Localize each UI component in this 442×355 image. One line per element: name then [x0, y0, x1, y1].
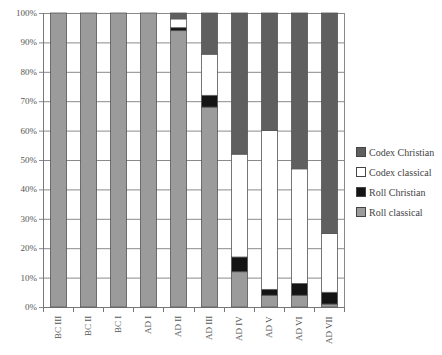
legend-item-roll-classical: Roll classical — [356, 202, 434, 222]
bar-segment-roll-christian — [202, 95, 218, 107]
legend-label: Roll Christian — [369, 187, 425, 198]
bar-segment-codex-classical — [292, 169, 308, 284]
x-tick-label: AD II — [173, 316, 183, 337]
y-tick-label: 100% — [0, 8, 37, 18]
bar-segment-codex-classical — [202, 54, 218, 95]
y-tick-label: 50% — [0, 155, 37, 165]
y-tick-label: 80% — [0, 67, 37, 77]
y-tick-label: 30% — [0, 214, 37, 224]
bar-segment-codex-classical — [171, 19, 187, 28]
legend-label: Codex Christian — [369, 147, 434, 158]
bar-segment-roll-classical — [232, 272, 248, 307]
bar-segment-codex-classical — [322, 234, 338, 293]
bar-segment-codex-christian — [322, 13, 338, 234]
x-tick-label: BC III — [53, 316, 63, 339]
stacked-bar-chart: 0%10%20%30%40%50%60%70%80%90%100% BC III… — [0, 0, 442, 355]
x-tick-label: AD VI — [294, 316, 304, 341]
bar-segment-codex-classical — [262, 131, 278, 290]
bar-segment-roll-christian — [171, 28, 187, 31]
bar-segment-codex-christian — [202, 13, 218, 54]
bar-segment-roll-christian — [322, 292, 338, 304]
bar-segment-roll-classical — [171, 31, 187, 307]
y-tick-label: 40% — [0, 184, 37, 194]
legend-label: Codex classical — [369, 167, 431, 178]
legend-swatch — [356, 207, 366, 217]
x-tick-label: BC I — [113, 316, 123, 333]
bar-segment-roll-christian — [232, 257, 248, 272]
y-tick-label: 10% — [0, 273, 37, 283]
bar-segment-roll-classical — [202, 107, 218, 307]
bar-segment-roll-classical — [262, 295, 278, 307]
y-tick-label: 0% — [0, 302, 37, 312]
bar-segment-codex-christian — [232, 13, 248, 154]
bar-segment-codex-christian — [262, 13, 278, 131]
y-tick-label: 90% — [0, 37, 37, 47]
bar-segment-roll-classical — [322, 304, 338, 307]
bar-segment-codex-christian — [292, 13, 308, 169]
bar-segment-roll-christian — [292, 283, 308, 295]
x-tick-label: AD III — [204, 316, 214, 340]
y-tick-label: 60% — [0, 126, 37, 136]
legend-label: Roll classical — [369, 207, 423, 218]
legend-swatch — [356, 167, 366, 177]
x-tick-label: AD VII — [324, 316, 334, 344]
y-tick-label: 20% — [0, 243, 37, 253]
bar-segment-codex-christian — [171, 13, 187, 19]
x-tick-label: AD V — [264, 316, 274, 338]
x-tick-label: AD IV — [234, 316, 244, 341]
y-tick-label: 70% — [0, 96, 37, 106]
bar-segment-codex-classical — [232, 154, 248, 257]
legend-item-roll-christian: Roll Christian — [356, 182, 434, 202]
x-tick-label: BC II — [83, 316, 93, 336]
bar-segment-roll-classical — [111, 13, 127, 307]
x-tick-label: AD I — [143, 316, 153, 334]
bar-segment-roll-classical — [51, 13, 67, 307]
legend-swatch — [356, 147, 366, 157]
bar-segment-roll-classical — [141, 13, 157, 307]
legend: Codex ChristianCodex classicalRoll Chris… — [356, 142, 434, 222]
legend-item-codex-christian: Codex Christian — [356, 142, 434, 162]
bar-segment-roll-classical — [81, 13, 97, 307]
legend-swatch — [356, 187, 366, 197]
legend-item-codex-classical: Codex classical — [356, 162, 434, 182]
bar-segment-roll-christian — [262, 289, 278, 295]
bar-segment-roll-classical — [292, 295, 308, 307]
